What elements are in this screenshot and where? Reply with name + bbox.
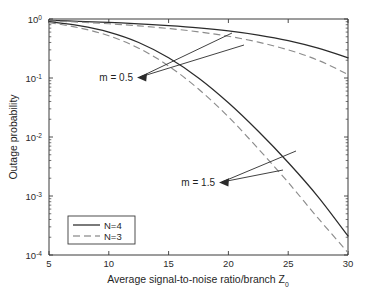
y-axis-title: Outage probability	[7, 94, 19, 180]
x-tick-label-20: 20	[223, 258, 234, 269]
x-tick-label-25: 25	[283, 258, 294, 269]
outage-probability-chart: 10010-110-210-310-4 51015202530 Average …	[0, 0, 372, 302]
x-tick-label-30: 30	[343, 258, 354, 269]
figure-container: 10010-110-210-310-4 51015202530 Average …	[0, 0, 372, 302]
x-tick-label-15: 15	[163, 258, 174, 269]
x-tick-label-5: 5	[46, 258, 51, 269]
legend-label-n4: N=4	[104, 220, 122, 231]
legend-box	[68, 216, 135, 244]
legend: N=4 N=3	[68, 216, 135, 244]
annotation-m05-label: m = 0.5	[99, 72, 133, 83]
chart-background	[0, 0, 372, 302]
annotation-m15-label: m = 1.5	[181, 177, 215, 188]
x-tick-label-10: 10	[104, 258, 115, 269]
legend-label-n3: N=3	[104, 231, 122, 242]
